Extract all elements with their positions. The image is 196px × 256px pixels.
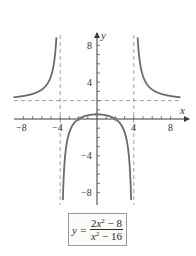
y-tick-label-neg8: −8 [81,187,92,198]
den-rest: − 16 [99,230,122,242]
intercept-point [95,113,99,117]
equation-box: y = 2x2 − 8 x2 − 16 [68,213,127,246]
num-rest: − 8 [105,217,122,229]
x-tick-label-neg8: −8 [16,122,27,133]
y-axis-label: y [100,29,106,41]
intercept-point [77,117,81,121]
x-axis-label: x [179,104,185,116]
x-tick-label-4: 4 [131,122,136,133]
curve-right-branch [138,38,180,97]
curve-left-branch [14,38,56,97]
equation-fraction: 2x2 − 8 x2 − 16 [90,217,123,242]
equation-denominator: x2 − 16 [90,230,123,242]
y-tick-label-4: 4 [87,77,92,88]
intercept-point [114,117,118,121]
y-tick-label-8: 8 [87,40,92,51]
x-tick-label-8: 8 [168,122,173,133]
equation-lhs: y = [72,224,87,236]
equation-numerator: 2x2 − 8 [90,217,123,230]
asymptote-lines [14,35,182,205]
x-tick-label-neg4: −4 [52,122,63,133]
y-tick-label-neg4: −4 [81,150,92,161]
